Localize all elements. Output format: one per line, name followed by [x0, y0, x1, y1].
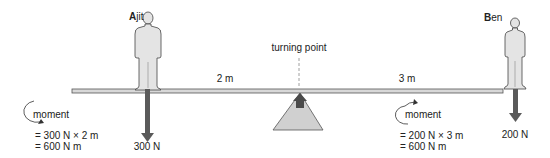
moment-label-right: moment — [405, 109, 441, 120]
person-silhouette-icon — [504, 18, 526, 89]
pivot: turning point — [271, 42, 326, 130]
moment-right: moment = 200 N × 3 m = 600 N m — [395, 99, 463, 152]
person-ajit — [135, 12, 161, 90]
person-name-ajit: Ajit — [129, 11, 144, 22]
force-label-ajit: 300 N — [134, 141, 161, 152]
person-name-ben: Ben — [484, 12, 502, 23]
moment-calc-right-line2: = 600 N m — [400, 141, 446, 152]
person-silhouette-icon — [135, 12, 161, 90]
person-ben — [504, 18, 526, 89]
moment-label-left: moment — [33, 109, 69, 120]
force-arrow-ajit — [141, 89, 154, 142]
moment-calc-left-line1: = 300 N × 2 m — [35, 130, 98, 141]
moment-calc-right-line1: = 200 N × 3 m — [400, 130, 463, 141]
distance-label-ben: 3 m — [399, 73, 416, 84]
seesaw-diagram: turning point 2 m 3 m Ajit 300 N — [0, 0, 550, 158]
distance-label-ajit: 2 m — [217, 73, 234, 84]
force-label-ben: 200 N — [502, 129, 529, 140]
moment-left: moment = 300 N × 2 m = 600 N m — [24, 101, 99, 152]
turning-point-label: turning point — [271, 42, 326, 53]
moment-calc-left-line2: = 600 N m — [35, 141, 81, 152]
force-arrow-ben — [509, 89, 522, 122]
